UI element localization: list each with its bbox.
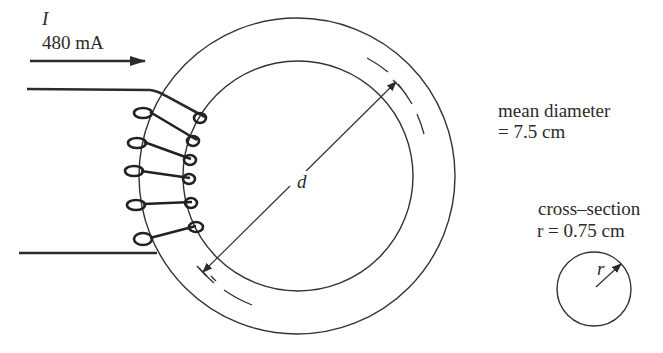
cross-section-radius-eq: r = 0.75 cm — [537, 220, 625, 241]
mean-diameter-value: = 7.5 cm — [498, 121, 565, 142]
cross-section-figure — [557, 252, 631, 326]
current-symbol: I — [42, 8, 48, 29]
radius-symbol: r — [597, 258, 604, 279]
mean-diameter-label: mean diameter — [498, 100, 610, 121]
lead-wire-top — [27, 89, 205, 117]
current-value: 480 mA — [42, 32, 104, 53]
diameter-symbol: d — [294, 171, 310, 192]
toroid-diagram: I 480 mA d mean diameter = 7.5 cm cross–… — [0, 0, 663, 353]
cross-section-title: cross–section — [538, 198, 640, 219]
cross-section-circle — [557, 252, 631, 326]
cross-section-radius: r = 0.75 cm — [537, 220, 625, 241]
mean-circle-dashed — [197, 58, 424, 305]
